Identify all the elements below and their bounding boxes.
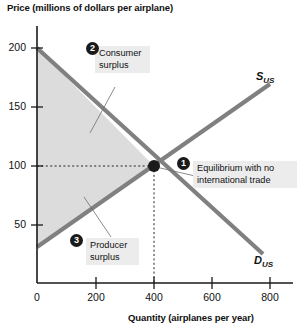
demand-curve-label-main: D xyxy=(254,254,262,266)
y-tick-label-200: 200 xyxy=(0,41,26,53)
consumer-surplus-callout: Consumer surplus xyxy=(95,46,150,73)
x-axis-title: Quantity (airplanes per year) xyxy=(128,312,254,323)
demand-curve-label-sub: US xyxy=(262,260,273,269)
y-tick-label-100: 100 xyxy=(0,159,26,171)
x-tick-label-0: 0 xyxy=(22,291,52,303)
y-tick-label-150: 150 xyxy=(0,100,26,112)
y-axis-title: Price (millions of dollars per airplane) xyxy=(7,2,173,13)
x-tick-label-400: 400 xyxy=(139,291,169,303)
equilibrium-callout: Equilibrium with no international trade xyxy=(193,161,297,188)
demand-curve-label: DUS xyxy=(254,254,273,269)
y-tick-label-50: 50 xyxy=(0,218,26,230)
annotation-marker-1: 1 xyxy=(177,157,190,170)
x-tick-label-200: 200 xyxy=(81,291,111,303)
producer-surplus-callout: Producer surplus xyxy=(86,238,139,265)
annotation-marker-3: 3 xyxy=(70,234,83,247)
supply-demand-chart: Price (millions of dollars per airplane)… xyxy=(0,0,303,333)
annotation-marker-2: 2 xyxy=(86,42,99,55)
supply-curve-label: SUS xyxy=(256,70,274,85)
x-tick-label-600: 600 xyxy=(197,291,227,303)
x-tick-label-800: 800 xyxy=(255,291,285,303)
equilibrium-point xyxy=(148,160,160,172)
supply-curve-label-sub: US xyxy=(263,76,274,85)
